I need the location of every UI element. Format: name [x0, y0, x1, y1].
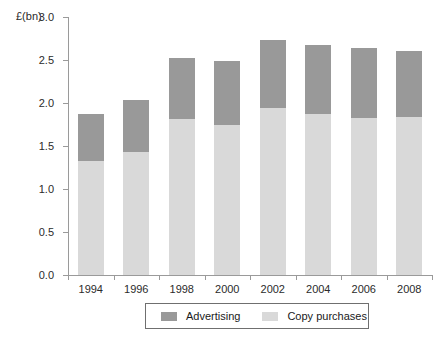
- bar-segment-advertising: [260, 40, 286, 108]
- bar-2000: [214, 61, 240, 275]
- x-axis-tick: [114, 275, 115, 280]
- bar-segment-copy-purchases: [260, 108, 286, 275]
- x-axis-tick: [159, 275, 160, 280]
- bar-2006: [351, 48, 377, 275]
- bar-1994: [78, 114, 104, 275]
- x-axis-tick-label: 2004: [306, 283, 330, 295]
- x-axis-tick: [432, 275, 433, 280]
- x-axis-tick: [296, 275, 297, 280]
- x-axis-tick: [205, 275, 206, 280]
- bar-segment-advertising: [305, 45, 331, 115]
- bar-segment-copy-purchases: [351, 118, 377, 275]
- bar-segment-advertising: [169, 58, 195, 119]
- y-axis-tick-label: 0.0: [39, 269, 54, 281]
- x-axis-tick-label: 2002: [261, 283, 285, 295]
- legend-entry-copy-purchases: Copy purchases: [262, 310, 367, 322]
- bar-1998: [169, 58, 195, 275]
- y-axis-tick: 3.0: [63, 17, 68, 18]
- plot-area: 3.02.52.01.51.00.50.0: [68, 17, 432, 275]
- x-axis-tick: [341, 275, 342, 280]
- bar-segment-advertising: [396, 51, 422, 116]
- x-axis-tick-label: 2000: [215, 283, 239, 295]
- y-axis-tick-label: 1.5: [39, 140, 54, 152]
- bar-segment-advertising: [214, 61, 240, 126]
- bar-segment-copy-purchases: [78, 161, 104, 275]
- bar-segment-copy-purchases: [214, 125, 240, 275]
- bar-2004: [305, 45, 331, 275]
- chart-legend: Advertising Copy purchases: [145, 303, 369, 329]
- legend-swatch-copy-purchases: [262, 312, 278, 321]
- x-axis-tick-label: 1998: [170, 283, 194, 295]
- x-axis-tick-label: 2006: [352, 283, 376, 295]
- y-axis-tick-label: 2.5: [39, 54, 54, 66]
- legend-label-advertising: Advertising: [186, 310, 240, 322]
- x-axis-tick-label: 2008: [397, 283, 421, 295]
- bar-segment-advertising: [78, 114, 104, 161]
- bar-segment-advertising: [351, 48, 377, 119]
- bar-1996: [123, 100, 149, 275]
- bar-segment-copy-purchases: [169, 119, 195, 275]
- x-axis-tick-label: 1994: [79, 283, 103, 295]
- bar-segment-advertising: [123, 100, 149, 152]
- y-axis-tick: 0.5: [63, 232, 68, 233]
- bar-segment-copy-purchases: [123, 152, 149, 275]
- legend-label-copy-purchases: Copy purchases: [287, 310, 367, 322]
- stacked-bar-chart: £(bn) 3.02.52.01.51.00.50.0 199419961998…: [0, 0, 447, 340]
- x-axis-tick: [68, 275, 69, 280]
- y-axis-tick-label: 0.5: [39, 226, 54, 238]
- legend-entry-advertising: Advertising: [161, 310, 240, 322]
- bar-2002: [260, 40, 286, 275]
- y-axis-tick: 2.5: [63, 60, 68, 61]
- y-axis-tick: 1.5: [63, 146, 68, 147]
- y-axis-tick-label: 2.0: [39, 97, 54, 109]
- bar-segment-copy-purchases: [396, 117, 422, 275]
- x-axis-tick-label: 1996: [124, 283, 148, 295]
- legend-swatch-advertising: [161, 312, 177, 321]
- y-axis-tick-label: 1.0: [39, 183, 54, 195]
- y-axis-tick-label: 3.0: [39, 11, 54, 23]
- y-axis-tick: 2.0: [63, 103, 68, 104]
- bar-2008: [396, 51, 422, 275]
- x-axis-tick: [387, 275, 388, 280]
- y-axis-tick: 1.0: [63, 189, 68, 190]
- x-axis-tick: [250, 275, 251, 280]
- bar-segment-copy-purchases: [305, 114, 331, 275]
